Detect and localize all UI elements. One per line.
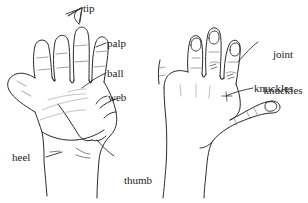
leader-lines (46, 8, 258, 157)
label-web: web (108, 91, 126, 103)
label-palp: palp (107, 37, 126, 49)
hand-diagram-figure: tip palp ball web heel thumb pad joint k… (0, 0, 308, 203)
label-tip: tip (83, 2, 95, 14)
label-heel: heel (12, 151, 30, 163)
label-thumb-pad: thumb pad (115, 150, 161, 203)
label-thumb-pad-line1: thumb (115, 174, 161, 186)
left-hand-outline (8, 27, 117, 198)
label-joint-knuckles: joint knuckles (259, 24, 307, 120)
label-knuckles: knuckles (254, 82, 293, 94)
label-joint-knuckles-line1: joint (259, 48, 307, 60)
label-ball: ball (107, 67, 124, 79)
